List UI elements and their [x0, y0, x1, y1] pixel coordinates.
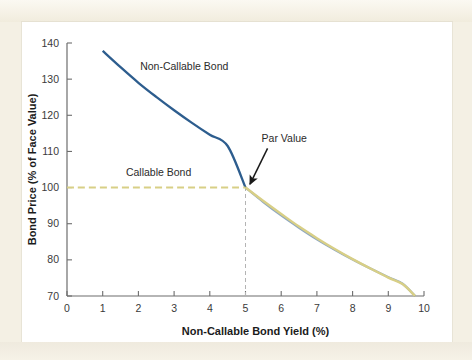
y-tick-label: 80 — [47, 253, 59, 265]
x-tick-label: 9 — [385, 302, 391, 314]
series-line-callable — [246, 188, 416, 296]
x-tick-label: 3 — [171, 302, 177, 314]
annotation-par-value: Par Value — [262, 132, 307, 144]
x-axis-title: Non-Callable Bond Yield (%) — [182, 325, 330, 337]
y-tick-label: 130 — [41, 73, 59, 85]
x-tick-label: 0 — [64, 302, 70, 314]
y-tick-label: 90 — [47, 217, 59, 229]
x-axis-ticks: 012345678910 — [64, 291, 430, 314]
bond-price-yield-chart: 708090100110120130140 012345678910 Non-C… — [22, 22, 452, 342]
y-tick-label: 140 — [41, 37, 59, 49]
figure-page: 708090100110120130140 012345678910 Non-C… — [0, 0, 472, 360]
y-tick-label: 110 — [42, 145, 59, 157]
y-axis-title: Bond Price (% of Face Value) — [26, 93, 38, 245]
series-label-non-callable: Non-Callable Bond — [140, 60, 228, 72]
annotation-arrow-icon — [250, 148, 268, 184]
x-tick-label: 1 — [100, 302, 106, 314]
x-tick-label: 2 — [135, 302, 141, 314]
series-layer: Non-Callable BondCallable Bond — [67, 51, 415, 296]
series-line-non-callable-extension — [246, 188, 416, 296]
chart-panel: 708090100110120130140 012345678910 Non-C… — [22, 22, 452, 342]
x-tick-label: 5 — [243, 302, 249, 314]
y-tick-label: 100 — [41, 181, 59, 193]
series-label-callable: Callable Bond — [126, 166, 192, 178]
x-tick-label: 10 — [418, 302, 430, 314]
y-tick-label: 70 — [47, 290, 59, 302]
x-tick-label: 4 — [207, 302, 213, 314]
x-tick-label: 6 — [278, 302, 284, 314]
annotation-layer: Par Value — [250, 132, 307, 184]
y-tick-label: 120 — [41, 109, 59, 121]
x-tick-label: 8 — [350, 302, 356, 314]
x-tick-label: 7 — [314, 302, 320, 314]
